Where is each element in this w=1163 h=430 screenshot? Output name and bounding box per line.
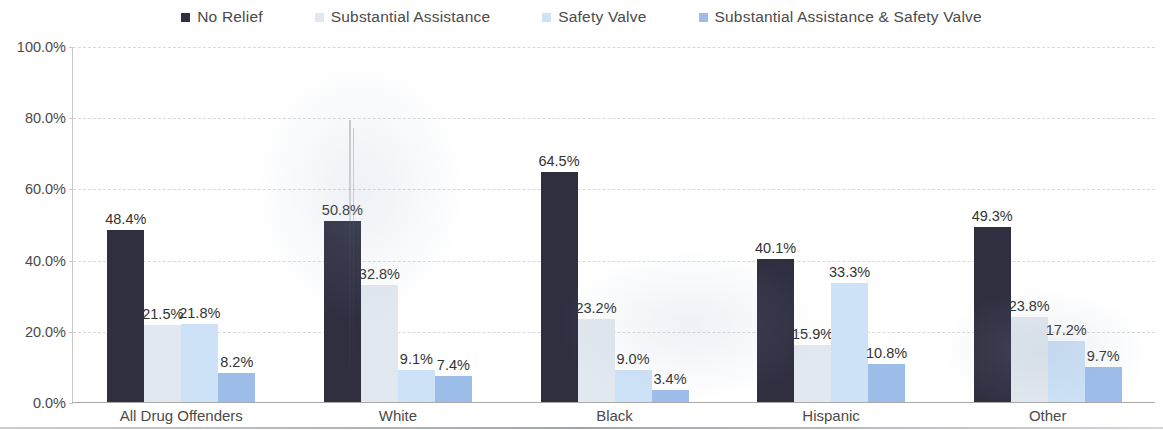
bar-column[interactable]: 17.2% bbox=[1048, 47, 1085, 402]
legend-item[interactable]: Substantial Assistance bbox=[315, 8, 491, 26]
bar-value-label: 49.3% bbox=[972, 208, 1013, 224]
legend-item-label: Safety Valve bbox=[558, 8, 646, 26]
square-marker-icon bbox=[315, 13, 324, 22]
bar-column[interactable]: 8.2% bbox=[218, 47, 255, 402]
bar-value-label: 21.8% bbox=[179, 305, 220, 321]
bar-value-label: 15.9% bbox=[792, 326, 833, 342]
chart-legend: No ReliefSubstantial AssistanceSafety Va… bbox=[0, 0, 1163, 34]
bar-value-label: 9.7% bbox=[1087, 348, 1120, 364]
bar-group: 64.5%23.2%9.0%3.4%Black bbox=[541, 47, 689, 402]
bar-column[interactable]: 32.8% bbox=[361, 47, 398, 402]
bar-value-label: 9.1% bbox=[400, 351, 433, 367]
bar[interactable] bbox=[107, 230, 144, 402]
x-axis-category-label: All Drug Offenders bbox=[120, 407, 243, 424]
bar[interactable] bbox=[181, 324, 218, 402]
bar-column[interactable]: 23.2% bbox=[578, 47, 615, 402]
y-axis-tick-mark bbox=[69, 403, 73, 404]
bar-column[interactable]: 23.8% bbox=[1011, 47, 1048, 402]
bar-column[interactable]: 10.8% bbox=[868, 47, 905, 402]
bar-column[interactable]: 48.4% bbox=[107, 47, 144, 402]
bar-value-label: 7.4% bbox=[437, 357, 470, 373]
y-axis-tick-label: 0.0% bbox=[0, 395, 66, 411]
bar-value-label: 21.5% bbox=[142, 306, 183, 322]
bar-group: 50.8%32.8%9.1%7.4%White bbox=[324, 47, 472, 402]
bar-column[interactable]: 64.5% bbox=[541, 47, 578, 402]
bar[interactable] bbox=[868, 364, 905, 402]
bar-column[interactable]: 7.4% bbox=[435, 47, 472, 402]
bar-column[interactable]: 3.4% bbox=[652, 47, 689, 402]
y-axis-tick-label: 40.0% bbox=[0, 253, 66, 269]
bar[interactable] bbox=[541, 172, 578, 402]
plot-area: 0.0%20.0%40.0%60.0%80.0%100.0% 48.4%21.5… bbox=[72, 47, 1155, 403]
legend-item[interactable]: No Relief bbox=[181, 8, 263, 26]
legend-item[interactable]: Safety Valve bbox=[542, 8, 646, 26]
bar[interactable] bbox=[615, 370, 652, 402]
bar[interactable] bbox=[757, 259, 794, 402]
bar[interactable] bbox=[324, 221, 361, 402]
bar[interactable] bbox=[794, 345, 831, 402]
bar-column[interactable]: 9.0% bbox=[615, 47, 652, 402]
bar[interactable] bbox=[1085, 367, 1122, 402]
x-axis-category-label: Black bbox=[596, 407, 633, 424]
bar-value-label: 33.3% bbox=[829, 264, 870, 280]
square-marker-icon bbox=[699, 13, 708, 22]
bar-column[interactable]: 9.1% bbox=[398, 47, 435, 402]
bar-column[interactable]: 9.7% bbox=[1085, 47, 1122, 402]
scan-edge-line bbox=[0, 427, 1163, 429]
bar-value-label: 8.2% bbox=[220, 354, 253, 370]
bar-value-label: 32.8% bbox=[359, 266, 400, 282]
bar[interactable] bbox=[435, 376, 472, 402]
x-axis-category-label: Hispanic bbox=[802, 407, 860, 424]
square-marker-icon bbox=[181, 13, 190, 22]
bar-value-label: 9.0% bbox=[616, 351, 649, 367]
y-axis-tick-label: 80.0% bbox=[0, 110, 66, 126]
x-axis-category-label: Other bbox=[1029, 407, 1067, 424]
bar-column[interactable]: 50.8% bbox=[324, 47, 361, 402]
y-axis-tick-label: 20.0% bbox=[0, 324, 66, 340]
bar-value-label: 50.8% bbox=[322, 202, 363, 218]
bar-column[interactable]: 40.1% bbox=[757, 47, 794, 402]
bar[interactable] bbox=[1011, 317, 1048, 402]
bar-group: 49.3%23.8%17.2%9.7%Other bbox=[974, 47, 1122, 402]
bar[interactable] bbox=[831, 283, 868, 402]
bar-value-label: 17.2% bbox=[1046, 322, 1087, 338]
x-axis-category-label: White bbox=[379, 407, 417, 424]
legend-item[interactable]: Substantial Assistance & Safety Valve bbox=[699, 8, 982, 26]
legend-item-label: Substantial Assistance & Safety Valve bbox=[715, 8, 982, 26]
bar-group: 48.4%21.5%21.8%8.2%All Drug Offenders bbox=[107, 47, 255, 402]
bar[interactable] bbox=[144, 325, 181, 402]
legend-item-label: Substantial Assistance bbox=[331, 8, 491, 26]
bar[interactable] bbox=[361, 285, 398, 402]
square-marker-icon bbox=[542, 13, 551, 22]
bar[interactable] bbox=[398, 370, 435, 402]
bar[interactable] bbox=[974, 227, 1011, 403]
bar-value-label: 64.5% bbox=[538, 153, 579, 169]
bar-value-label: 48.4% bbox=[105, 211, 146, 227]
y-axis-tick-label: 100.0% bbox=[0, 39, 66, 55]
bar-group: 40.1%15.9%33.3%10.8%Hispanic bbox=[757, 47, 905, 402]
bar-value-label: 23.8% bbox=[1009, 298, 1050, 314]
bar-value-label: 10.8% bbox=[866, 345, 907, 361]
legend-item-label: No Relief bbox=[197, 8, 263, 26]
bar-groups: 48.4%21.5%21.8%8.2%All Drug Offenders50.… bbox=[73, 47, 1155, 402]
bar-column[interactable]: 33.3% bbox=[831, 47, 868, 402]
bar[interactable] bbox=[578, 319, 615, 402]
bar-column[interactable]: 15.9% bbox=[794, 47, 831, 402]
bar-column[interactable]: 21.5% bbox=[144, 47, 181, 402]
bar-column[interactable]: 21.8% bbox=[181, 47, 218, 402]
y-axis-tick-label: 60.0% bbox=[0, 181, 66, 197]
bar-value-label: 23.2% bbox=[575, 300, 616, 316]
bar-value-label: 40.1% bbox=[755, 240, 796, 256]
bar[interactable] bbox=[652, 390, 689, 402]
bar[interactable] bbox=[1048, 341, 1085, 402]
bar[interactable] bbox=[218, 373, 255, 402]
bar-value-label: 3.4% bbox=[653, 371, 686, 387]
bar-column[interactable]: 49.3% bbox=[974, 47, 1011, 402]
